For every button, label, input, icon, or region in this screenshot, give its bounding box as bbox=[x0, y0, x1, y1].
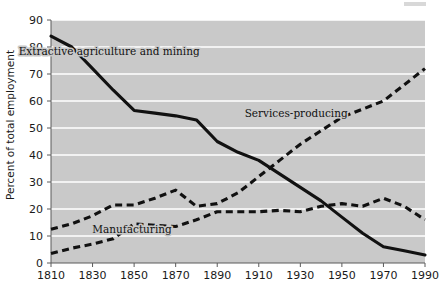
series-label-0: Extractive agriculture and mining bbox=[19, 45, 200, 57]
series-label-1: Services-producing bbox=[245, 107, 348, 119]
x-tick-label: 1830 bbox=[79, 269, 107, 282]
x-tick-label: 1890 bbox=[203, 269, 231, 282]
y-tick-label: 10 bbox=[29, 230, 43, 243]
x-tick-label: 1990 bbox=[411, 269, 439, 282]
series-label-2: Manufacturing bbox=[92, 223, 172, 235]
y-tick-label: 70 bbox=[29, 68, 43, 81]
y-axis-title: Percent of total employment bbox=[4, 50, 16, 200]
y-tick-label: 40 bbox=[29, 149, 43, 162]
x-axis-tick-labels: 1810183018501870189019101930195019701990 bbox=[37, 269, 439, 282]
x-tick-label: 1930 bbox=[286, 269, 314, 282]
x-tick-label: 1910 bbox=[245, 269, 273, 282]
x-tick-label: 1870 bbox=[162, 269, 190, 282]
y-tick-label: 60 bbox=[29, 95, 43, 108]
x-tick-label: 1850 bbox=[120, 269, 148, 282]
x-tick-label: 1950 bbox=[328, 269, 356, 282]
x-axis-tickmarks bbox=[51, 263, 425, 267]
x-tick-label: 1970 bbox=[369, 269, 397, 282]
y-tick-label: 50 bbox=[29, 122, 43, 135]
y-tick-label: 20 bbox=[29, 203, 43, 216]
scan-artifact bbox=[404, 2, 426, 6]
x-tick-label: 1810 bbox=[37, 269, 65, 282]
y-tick-label: 30 bbox=[29, 176, 43, 189]
chart-figure: 0102030405060708090 18101830185018701890… bbox=[0, 0, 442, 288]
y-tick-label: 90 bbox=[29, 14, 43, 27]
employment-line-chart: 0102030405060708090 18101830185018701890… bbox=[0, 0, 442, 288]
